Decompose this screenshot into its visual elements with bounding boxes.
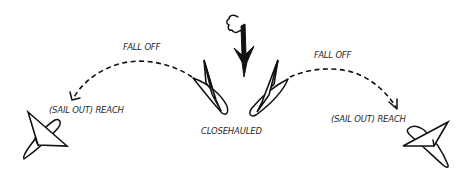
reach-boat-right bbox=[403, 122, 448, 167]
closehauled-boat-right bbox=[250, 60, 288, 116]
closehauled-label: CLOSEHAULED bbox=[201, 127, 262, 136]
wind-cloud-icon bbox=[227, 15, 243, 32]
dashed-arc bbox=[290, 69, 396, 107]
reach-label-left: (SAIL OUT) REACH bbox=[49, 106, 124, 115]
fall-off-label-right: FALL OFF bbox=[314, 51, 351, 60]
fall-off-arrow-right bbox=[290, 69, 397, 109]
arrowhead-icon bbox=[389, 99, 397, 109]
reach-label-right: (SAIL OUT) REACH bbox=[331, 115, 406, 124]
wind-cloud-arrow-icon bbox=[227, 15, 254, 77]
fall-off-arrow-left bbox=[70, 61, 192, 100]
diagram-canvas bbox=[0, 0, 472, 183]
boom bbox=[433, 140, 434, 146]
fall-off-label-left: FALL OFF bbox=[123, 43, 160, 52]
points-of-sail-diagram: FALL OFF FALL OFF (SAIL OUT) REACH (SAIL… bbox=[0, 0, 472, 183]
reach-boat-left bbox=[24, 112, 67, 159]
dashed-arc bbox=[73, 61, 192, 99]
closehauled-boat-left bbox=[193, 60, 228, 114]
